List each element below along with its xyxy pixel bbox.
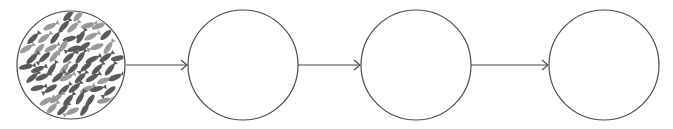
stage-1-circle: [17, 7, 128, 119]
stage-4-circle: [549, 10, 659, 120]
process-flow-diagram: [0, 0, 673, 129]
arrow-1-to-2: [126, 60, 187, 70]
stage-2-circle: [188, 10, 298, 120]
arrow-3-to-4: [471, 60, 548, 70]
arrow-2-to-3: [298, 60, 360, 70]
stage-3-circle: [361, 10, 471, 120]
